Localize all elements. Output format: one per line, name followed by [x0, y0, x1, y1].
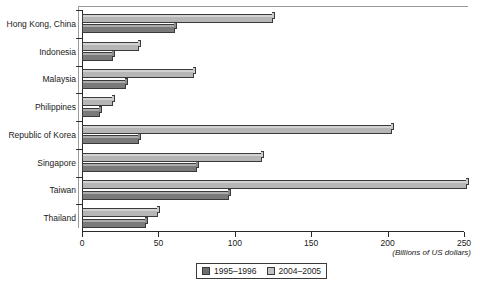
y-axis-tick — [76, 93, 82, 94]
chart-category-row: Thailand — [0, 204, 480, 232]
bar-2004-2005 — [82, 97, 113, 106]
y-axis-tick — [76, 177, 82, 178]
dark-gray-swatch — [202, 267, 210, 275]
y-axis-category-label: Indonesia — [0, 47, 76, 57]
bar-2004-2005 — [82, 180, 467, 189]
x-axis-tick-label: 0 — [80, 238, 85, 248]
chart-backwall-top — [78, 6, 468, 7]
x-axis-tick-label: 100 — [228, 238, 242, 248]
y-axis-category-label: Singapore — [0, 158, 76, 168]
y-axis-tick — [76, 38, 82, 39]
x-axis-tick-label: 250 — [457, 238, 471, 248]
chart-category-row: Malaysia — [0, 66, 480, 94]
chart-category-row: Singapore — [0, 149, 480, 177]
bar-2004-2005 — [82, 153, 262, 162]
bar-chart: Hong Kong, ChinaIndonesiaMalaysiaPhilipp… — [0, 0, 480, 288]
x-axis-tick-label: 50 — [154, 238, 163, 248]
y-axis-tick — [76, 204, 82, 205]
x-axis-tick — [82, 232, 83, 237]
bar-1995-1996 — [82, 135, 139, 144]
x-axis-tick-label: 150 — [304, 238, 318, 248]
chart-category-row: Taiwan — [0, 177, 480, 205]
x-axis-tick — [388, 232, 389, 237]
chart-legend: 1995–19962004–2005 — [196, 263, 327, 279]
bar-2004-2005 — [82, 69, 194, 78]
y-axis-category-label: Hong Kong, China — [0, 19, 76, 29]
y-axis-tick — [76, 121, 82, 122]
x-axis-tick — [464, 232, 465, 237]
x-axis-tick — [235, 232, 236, 237]
bar-2004-2005 — [82, 42, 139, 51]
bar-1995-1996 — [82, 24, 175, 33]
y-axis-tick — [76, 10, 82, 11]
legend-item: 1995–1996 — [202, 267, 257, 276]
y-axis-category-label: Republic of Korea — [0, 130, 76, 140]
bar-2004-2005 — [82, 125, 392, 134]
x-axis-tick — [158, 232, 159, 237]
chart-category-row: Republic of Korea — [0, 121, 480, 149]
bar-2004-2005 — [82, 14, 273, 23]
chart-rows: Hong Kong, ChinaIndonesiaMalaysiaPhilipp… — [0, 10, 480, 232]
bar-1995-1996 — [82, 163, 197, 172]
chart-category-row: Philippines — [0, 93, 480, 121]
bar-1995-1996 — [82, 191, 229, 200]
bar-1995-1996 — [82, 80, 126, 89]
bar-1995-1996 — [82, 52, 113, 61]
legend-label: 2004–2005 — [279, 267, 322, 276]
y-axis-category-label: Philippines — [0, 102, 76, 112]
y-axis-tick — [76, 149, 82, 150]
x-axis-title: (Billions of US dollars) — [0, 248, 471, 257]
y-axis-tick — [76, 66, 82, 67]
x-axis-tick-label: 200 — [381, 238, 395, 248]
legend-item: 2004–2005 — [267, 267, 322, 276]
y-axis-category-label: Malaysia — [0, 74, 76, 84]
legend-label: 1995–1996 — [214, 267, 257, 276]
x-axis-tick — [311, 232, 312, 237]
y-axis-category-label: Taiwan — [0, 185, 76, 195]
light-gray-swatch — [267, 267, 275, 275]
chart-category-row: Indonesia — [0, 38, 480, 66]
chart-category-row: Hong Kong, China — [0, 10, 480, 38]
y-axis-category-label: Thailand — [0, 213, 76, 223]
bar-1995-1996 — [82, 219, 146, 228]
bar-1995-1996 — [82, 108, 100, 117]
